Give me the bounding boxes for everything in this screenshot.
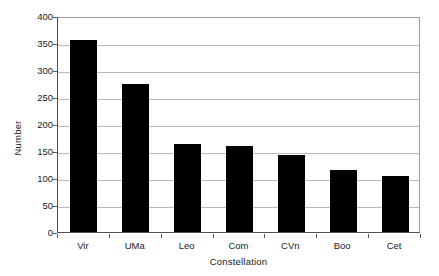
y-axis-tick-label: 200 [20, 119, 53, 131]
x-axis-tick-label: Leo [161, 239, 213, 252]
y-axis-tick-label: 350 [20, 38, 53, 50]
x-axis-tick-mark [109, 234, 110, 238]
y-axis-tick-label: 250 [20, 92, 53, 104]
x-axis-tick-label: Com [213, 239, 265, 252]
bar-chart-figure: Number 400350300250200150100500 VirUMaLe… [0, 0, 439, 276]
x-axis-tick-label: CVn [264, 239, 316, 252]
x-axis-tick-label: UMa [109, 239, 161, 252]
y-axis-tick-label: 0 [20, 227, 53, 239]
bars-group [58, 18, 419, 232]
y-axis-tick-label: 300 [20, 65, 53, 77]
plot-area [57, 17, 420, 233]
x-axis-tick-mark [368, 234, 369, 238]
bar [226, 146, 253, 232]
y-axis-tick-label: 100 [20, 173, 53, 185]
x-axis-tick-mark [57, 234, 58, 238]
x-axis-title: Constellation [57, 256, 420, 267]
x-axis-tick-label: Vir [57, 239, 109, 252]
x-axis-tick-mark [213, 234, 214, 238]
x-axis-tick-mark [420, 234, 421, 238]
bar [174, 144, 201, 232]
x-axis-tick-mark [264, 234, 265, 238]
x-axis-tick-mark [161, 234, 162, 238]
bar [70, 40, 97, 232]
bar [278, 155, 305, 232]
bar [122, 84, 149, 233]
y-axis-tick-label: 400 [20, 11, 53, 23]
x-axis-tick-mark [316, 234, 317, 238]
y-axis-tick-label: 150 [20, 146, 53, 158]
y-axis-tick-label: 50 [20, 200, 53, 212]
bar [382, 176, 409, 232]
bar [330, 170, 357, 232]
x-axis-tick-label: Cet [368, 239, 420, 252]
x-axis-tick-label: Boo [316, 239, 368, 252]
y-axis-tick-labels: 400350300250200150100500 [20, 17, 53, 233]
